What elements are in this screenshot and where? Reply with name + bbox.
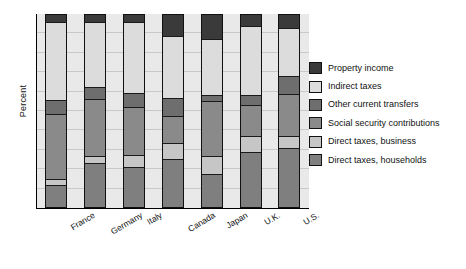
x-tick-label: Japan — [224, 210, 249, 231]
legend-label: Direct taxes, households — [328, 156, 427, 165]
bar-segment — [124, 22, 144, 92]
bar-column — [240, 14, 262, 208]
legend-swatch — [309, 62, 322, 74]
bar-segment — [202, 15, 222, 39]
bar-segment — [241, 105, 261, 136]
legend-swatch — [309, 117, 322, 129]
bar-column — [201, 14, 223, 208]
bar-segment — [124, 93, 144, 107]
bar-segment — [279, 94, 299, 136]
stacked-bar[interactable] — [240, 14, 262, 208]
bar-segment — [202, 39, 222, 94]
bar-segment — [85, 163, 105, 207]
bar-segment — [163, 15, 183, 36]
bar-column — [84, 14, 106, 208]
bar-column — [45, 14, 67, 208]
bar-segment — [46, 179, 66, 186]
bar-segment — [46, 22, 66, 100]
bar-segment — [85, 87, 105, 99]
bar-segment — [85, 15, 105, 22]
stacked-bar[interactable] — [123, 14, 145, 208]
y-axis-title: Percent — [18, 56, 28, 146]
bar-group — [37, 14, 309, 208]
bar-segment — [85, 22, 105, 87]
bar-segment — [202, 156, 222, 174]
legend-label: Other current transfers — [328, 100, 419, 109]
bar-segment — [163, 98, 183, 116]
bar-segment — [85, 99, 105, 156]
x-tick-label: U.S. — [301, 210, 320, 227]
x-tick-label: Germany — [109, 210, 144, 237]
stacked-bar[interactable] — [162, 14, 184, 208]
bar-segment — [46, 114, 66, 179]
x-tick-label: France — [69, 210, 97, 232]
bar-segment — [202, 95, 222, 102]
legend-item[interactable]: Direct taxes, business — [309, 133, 461, 151]
bar-column — [278, 14, 300, 208]
chart-figure: Percent FranceGermanyItalyCanadaJapanU.K… — [0, 0, 466, 269]
bar-segment — [241, 26, 261, 94]
legend-swatch — [309, 154, 322, 166]
legend-swatch — [309, 81, 322, 93]
legend-label: Social security contributions — [328, 119, 440, 128]
bar-segment — [202, 101, 222, 156]
legend-swatch — [309, 99, 322, 111]
stacked-bar[interactable] — [45, 14, 67, 208]
bar-segment — [241, 136, 261, 152]
legend-item[interactable]: Property income — [309, 59, 461, 77]
plot-area — [36, 14, 309, 209]
bar-segment — [279, 148, 299, 207]
stacked-bar[interactable] — [84, 14, 106, 208]
legend-label: Direct taxes, business — [328, 137, 416, 146]
bar-column — [162, 14, 184, 208]
x-tick-label: Italy — [145, 210, 164, 227]
bar-segment — [124, 167, 144, 207]
bar-segment — [241, 95, 261, 105]
bar-segment — [279, 76, 299, 94]
x-tick-label: Canada — [186, 210, 217, 234]
bar-segment — [85, 156, 105, 163]
legend-label: Indirect taxes — [328, 82, 382, 91]
legend-label: Property income — [328, 64, 394, 73]
bar-segment — [279, 15, 299, 28]
legend-item[interactable]: Indirect taxes — [309, 77, 461, 95]
stacked-bar[interactable] — [278, 14, 300, 208]
bar-segment — [46, 15, 66, 22]
bar-segment — [202, 174, 222, 207]
bar-segment — [124, 155, 144, 167]
bar-segment — [124, 15, 144, 22]
x-tick-label: U.K. — [262, 210, 281, 227]
bar-segment — [241, 152, 261, 207]
legend-item[interactable]: Other current transfers — [309, 96, 461, 114]
bar-segment — [46, 100, 66, 114]
stacked-bar[interactable] — [201, 14, 223, 208]
bar-segment — [163, 36, 183, 99]
legend: Property incomeIndirect taxesOther curre… — [309, 59, 461, 169]
bar-segment — [124, 107, 144, 155]
bar-segment — [241, 15, 261, 26]
bar-segment — [163, 116, 183, 143]
bar-segment — [163, 159, 183, 207]
bar-segment — [46, 185, 66, 207]
bar-segment — [279, 136, 299, 148]
bar-column — [123, 14, 145, 208]
legend-swatch — [309, 136, 322, 148]
bar-segment — [163, 143, 183, 159]
legend-item[interactable]: Social security contributions — [309, 114, 461, 132]
legend-item[interactable]: Direct taxes, households — [309, 151, 461, 169]
x-axis-tick-labels: FranceGermanyItalyCanadaJapanU.K.U.S. — [36, 210, 308, 268]
bar-segment — [279, 28, 299, 76]
